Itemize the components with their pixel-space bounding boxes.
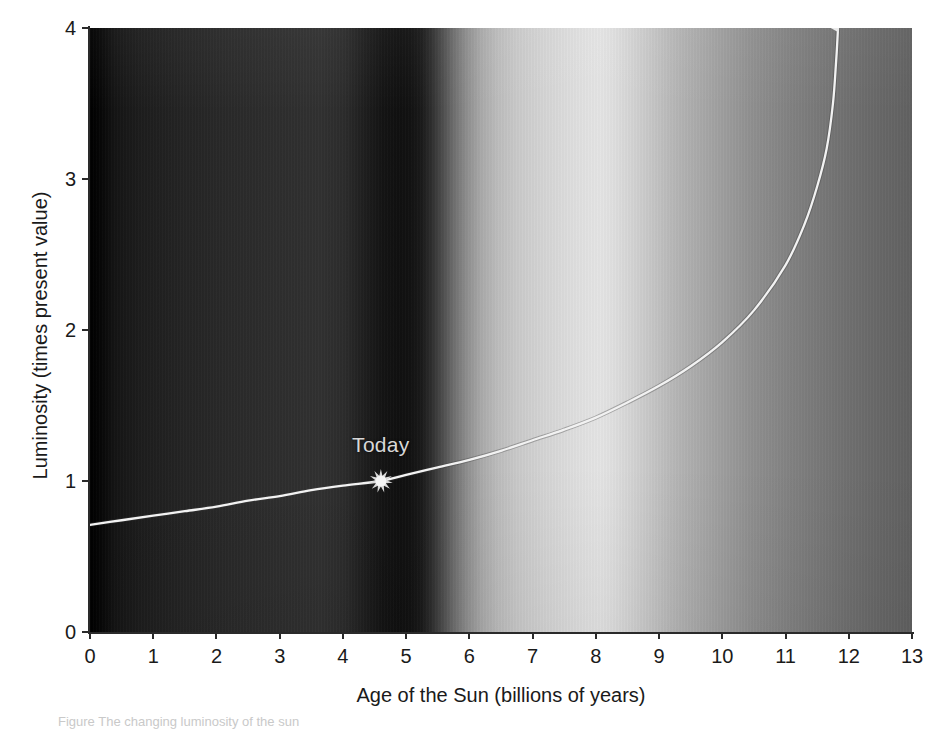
x-tick-label-8: 8 — [590, 645, 601, 668]
x-tick-label-13: 13 — [901, 645, 923, 668]
y-tick-label-3: 3 — [65, 168, 76, 191]
figure-container: Today 012345678910111213 01234 Age of th… — [0, 0, 950, 731]
luminosity-curve-shadow — [90, 28, 838, 525]
x-tick-label-3: 3 — [274, 645, 285, 668]
x-tick-2 — [215, 633, 217, 639]
luminosity-curve-svg — [90, 28, 912, 632]
x-tick-label-1: 1 — [148, 645, 159, 668]
x-tick-10 — [721, 633, 723, 639]
y-tick-label-0: 0 — [65, 621, 76, 644]
x-tick-label-9: 9 — [654, 645, 665, 668]
y-tick-2 — [82, 329, 89, 331]
x-tick-8 — [595, 633, 597, 639]
x-tick-11 — [785, 633, 787, 639]
x-tick-5 — [405, 633, 407, 639]
y-tick-label-1: 1 — [65, 470, 76, 493]
y-tick-label-4: 4 — [65, 17, 76, 40]
y-axis-title: Luminosity (times present value) — [29, 34, 52, 638]
x-tick-label-4: 4 — [337, 645, 348, 668]
luminosity-curve — [90, 28, 838, 525]
y-tick-0 — [82, 631, 89, 633]
x-axis-title: Age of the Sun (billions of years) — [90, 684, 912, 707]
x-tick-label-6: 6 — [464, 645, 475, 668]
x-tick-label-7: 7 — [527, 645, 538, 668]
sunburst-marker-core — [375, 476, 386, 487]
y-tick-3 — [82, 178, 89, 180]
x-tick-label-10: 10 — [711, 645, 733, 668]
x-tick-label-2: 2 — [211, 645, 222, 668]
x-tick-label-5: 5 — [401, 645, 412, 668]
y-tick-1 — [82, 480, 89, 482]
x-tick-9 — [658, 633, 660, 639]
x-tick-1 — [152, 633, 154, 639]
x-tick-4 — [342, 633, 344, 639]
y-tick-label-2: 2 — [65, 319, 76, 342]
x-axis-line — [88, 632, 914, 634]
x-tick-3 — [279, 633, 281, 639]
x-tick-0 — [89, 633, 91, 639]
x-tick-label-0: 0 — [84, 645, 95, 668]
x-tick-13 — [911, 633, 913, 639]
x-tick-12 — [848, 633, 850, 639]
plot-area: Today — [90, 28, 912, 632]
x-tick-7 — [532, 633, 534, 639]
figure-caption: Figure The changing luminosity of the su… — [58, 714, 299, 729]
y-tick-4 — [82, 27, 89, 29]
x-tick-6 — [468, 633, 470, 639]
x-tick-label-11: 11 — [775, 645, 796, 668]
x-tick-label-12: 12 — [838, 645, 860, 668]
